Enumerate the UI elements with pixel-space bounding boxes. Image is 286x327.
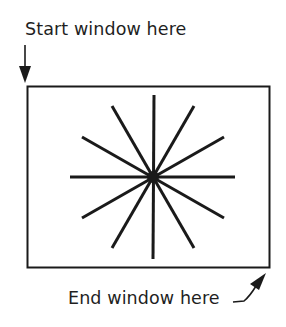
window-diagram — [0, 0, 286, 327]
starburst-test-pattern — [70, 95, 235, 259]
start-arrow-icon — [19, 45, 31, 83]
end-arrow-icon — [233, 273, 266, 302]
